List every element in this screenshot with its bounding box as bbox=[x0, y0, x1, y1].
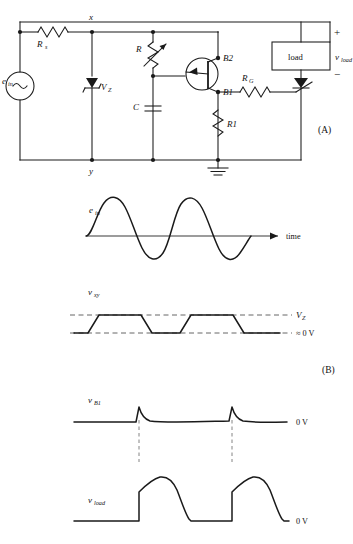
vb1-sublabel: B1 bbox=[94, 399, 101, 406]
ujt-emitter-arrow bbox=[189, 68, 198, 76]
ein-sine-trace bbox=[86, 197, 251, 259]
load-box-label: load bbox=[288, 52, 303, 62]
time-axis-label: time bbox=[286, 232, 301, 241]
series-resistor-symbol bbox=[38, 27, 68, 37]
variable-resistor-label: R bbox=[135, 44, 142, 54]
ujt-base2-label: B2 bbox=[223, 53, 233, 63]
series-resistor-sublabel: s bbox=[45, 43, 48, 50]
waveform-panel: e in time v xy V Z ≈ 0 V (B) bbox=[70, 197, 335, 526]
zener-bend-left bbox=[83, 88, 85, 92]
node-x-label: x bbox=[88, 12, 93, 22]
ground-symbol bbox=[208, 160, 228, 175]
circuit-panel: x R s e in V bbox=[2, 12, 353, 176]
node-y-label: y bbox=[88, 166, 93, 176]
vb1-label: v bbox=[88, 395, 92, 405]
ac-source: e in bbox=[2, 32, 34, 160]
scr-triangle bbox=[294, 78, 308, 88]
figure-root: x R s e in V bbox=[0, 0, 353, 544]
ein-sublabel: in bbox=[95, 209, 100, 216]
ujt-base2-dot bbox=[216, 56, 220, 60]
ac-source-sublabel: in bbox=[8, 80, 13, 87]
ujt: B2 B1 bbox=[153, 32, 233, 160]
time-axis-arrowhead bbox=[270, 233, 278, 240]
capacitor-label: C bbox=[133, 102, 140, 112]
base1-resistor-label: R1 bbox=[226, 119, 237, 129]
vxy-label: v bbox=[88, 287, 92, 297]
load-voltage-label: v bbox=[335, 52, 339, 62]
zener-label: V bbox=[101, 82, 108, 92]
ein-waveform: e in time bbox=[86, 197, 301, 259]
rc-branch: R C bbox=[133, 32, 185, 160]
vz-ref-sublabel: Z bbox=[302, 314, 306, 321]
gate-resistor-symbol bbox=[240, 87, 270, 97]
zener-branch: V Z bbox=[83, 32, 112, 160]
base1-resistor: R1 bbox=[213, 110, 237, 136]
vb1-waveform: v B1 0 V bbox=[74, 395, 308, 427]
panel-a-label: (A) bbox=[318, 125, 331, 136]
vload-baseline-label: 0 V bbox=[296, 517, 308, 526]
variable-resistor-symbol bbox=[148, 42, 158, 68]
vb1-trace bbox=[74, 407, 287, 422]
vload-label: v bbox=[88, 495, 92, 505]
vxy-waveform: v xy V Z ≈ 0 V bbox=[70, 287, 315, 338]
ac-source-label: e bbox=[2, 76, 6, 86]
zero-ref-label: ≈ 0 V bbox=[296, 329, 315, 338]
vload-sublabel: load bbox=[94, 499, 106, 506]
gate-resistor-sublabel: G bbox=[249, 77, 254, 84]
rs-branch bbox=[20, 27, 153, 37]
junction-dot-c-bottom bbox=[151, 158, 155, 162]
junction-dot-node-y bbox=[90, 158, 94, 162]
vb1-baseline-label: 0 V bbox=[296, 418, 308, 427]
series-resistor-label: R bbox=[36, 39, 43, 49]
bottom-rail: y bbox=[20, 158, 301, 176]
polarity-minus: − bbox=[334, 68, 340, 80]
sync-guides bbox=[139, 420, 232, 462]
ac-sine-glyph bbox=[13, 84, 27, 89]
ein-label: e bbox=[89, 205, 93, 215]
scr bbox=[293, 78, 309, 160]
load-box: load + − v load bbox=[272, 22, 353, 80]
gate-resistor-label: R bbox=[241, 73, 248, 83]
vload-waveform: v load 0 V bbox=[74, 477, 308, 526]
zener-triangle bbox=[86, 78, 98, 88]
load-voltage-sublabel: load bbox=[341, 56, 353, 63]
vxy-sublabel: xy bbox=[93, 291, 100, 298]
vload-trace bbox=[74, 477, 289, 521]
polarity-plus: + bbox=[334, 26, 340, 38]
panel-b-label: (B) bbox=[322, 365, 335, 376]
zener-sublabel: Z bbox=[108, 86, 112, 93]
vxy-trace bbox=[74, 315, 280, 333]
